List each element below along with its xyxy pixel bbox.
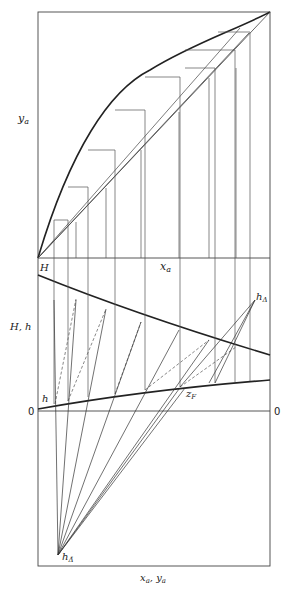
- label-h-delta-bar: hΔ̄: [62, 551, 74, 564]
- label-h: h: [42, 393, 48, 404]
- label-ya: ya: [17, 112, 29, 126]
- xy-diagram: [38, 12, 270, 258]
- label-Hh: H, h: [9, 321, 32, 332]
- label-h-delta: hΔ: [256, 291, 268, 304]
- label-zF: zF: [185, 388, 197, 401]
- ponchon-savarit-diagram: ya xa H H, h h 0 0 zF hΔ hΔ̄ xa, ya: [0, 0, 289, 595]
- label-xa: xa: [160, 260, 171, 274]
- label-zero-right: 0: [274, 406, 280, 417]
- label-zero-left: 0: [28, 406, 34, 417]
- label-H: H: [39, 262, 49, 273]
- label-xa-ya: xa, ya: [140, 572, 166, 585]
- enthalpy-diagram: [38, 258, 270, 555]
- liquid-enthalpy-curve: [38, 380, 270, 409]
- operating-line-upper: [38, 33, 249, 258]
